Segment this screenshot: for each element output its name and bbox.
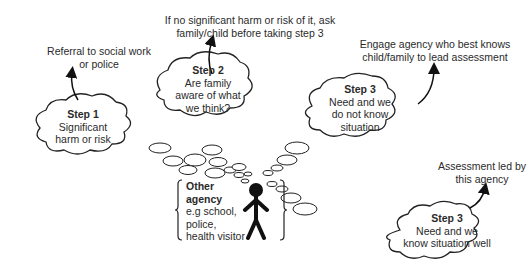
agency-line-1: e.g school, xyxy=(186,205,237,217)
left-brace xyxy=(175,180,182,240)
agency-title-1: Other xyxy=(186,180,245,193)
agency-line-3: health visitor xyxy=(186,230,245,242)
step3b-title: Step 3 xyxy=(402,212,492,225)
outcome-referral: Referral to social work or police xyxy=(44,45,154,70)
outcome-ask-family: If no significant harm or risk of it, as… xyxy=(160,14,340,39)
step3b-line1: Need and we xyxy=(416,225,478,237)
outcome-assessment-led: Assessment led by this agency xyxy=(432,160,531,185)
step2-line3: we think? xyxy=(186,102,230,114)
cloud-step2-text: Step 2 Are family aware of what we think… xyxy=(168,64,248,114)
agency-title-2: agency xyxy=(186,193,245,206)
step2-line1: Are family xyxy=(185,77,232,89)
step3a-title: Step 3 xyxy=(320,83,400,96)
arrow-step3a xyxy=(418,68,434,104)
cloud-step3b-text: Step 3 Need and we know situation well xyxy=(402,212,492,250)
step3b-line2: know situation well xyxy=(403,237,491,249)
cloud-step1-text: Step 1 Significant harm or risk xyxy=(48,108,118,146)
step2-title: Step 2 xyxy=(168,64,248,77)
step1-line2: harm or risk xyxy=(55,133,110,145)
agency-line-2: police, xyxy=(186,218,216,230)
step3a-line2: do not know xyxy=(332,108,389,120)
arrow-step3b xyxy=(470,188,485,208)
cloud-step3a-text: Step 3 Need and we do not know situation xyxy=(320,83,400,133)
step2-line2: aware of what xyxy=(175,89,240,101)
other-agency-label: Other agency e.g school, police, health … xyxy=(186,180,245,243)
person-icon xyxy=(245,183,267,238)
step1-line1: Significant xyxy=(59,121,107,133)
step3a-line3: situation xyxy=(340,121,379,133)
step1-title: Step 1 xyxy=(48,108,118,121)
outcome-engage-agency: Engage agency who best knows child/famil… xyxy=(350,38,520,63)
step3a-line1: Need and we xyxy=(329,96,391,108)
